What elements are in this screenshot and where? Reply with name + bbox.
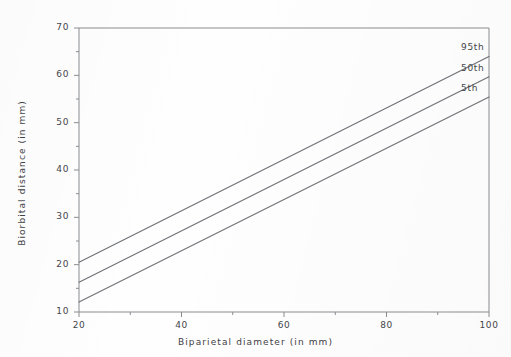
series-line-5th bbox=[79, 97, 489, 302]
y-tick-label: 60 bbox=[31, 69, 69, 79]
y-tick-label: 70 bbox=[31, 22, 69, 32]
series-line-95th bbox=[79, 56, 489, 262]
x-tick-label: 60 bbox=[264, 320, 304, 330]
y-tick-label: 30 bbox=[31, 211, 69, 221]
x-tick-label: 100 bbox=[469, 320, 509, 330]
chart-figure: Biparietal diameter (in mm) Biorbital di… bbox=[0, 0, 511, 357]
x-tick-label: 40 bbox=[162, 320, 202, 330]
x-tick-label: 20 bbox=[59, 320, 99, 330]
x-axis-title: Biparietal diameter (in mm) bbox=[0, 337, 511, 347]
series-label-50th: 50th bbox=[461, 63, 485, 73]
series-label-5th: 5th bbox=[461, 83, 478, 93]
x-tick-label: 80 bbox=[367, 320, 407, 330]
series-line-50th bbox=[79, 77, 489, 282]
y-tick-label: 50 bbox=[31, 117, 69, 127]
y-tick-label: 10 bbox=[31, 306, 69, 316]
chart-plot-area bbox=[0, 0, 511, 357]
series-label-95th: 95th bbox=[461, 42, 485, 52]
y-tick-label: 20 bbox=[31, 259, 69, 269]
y-axis-title: Biorbital distance (in mm) bbox=[17, 78, 27, 268]
y-tick-label: 40 bbox=[31, 164, 69, 174]
